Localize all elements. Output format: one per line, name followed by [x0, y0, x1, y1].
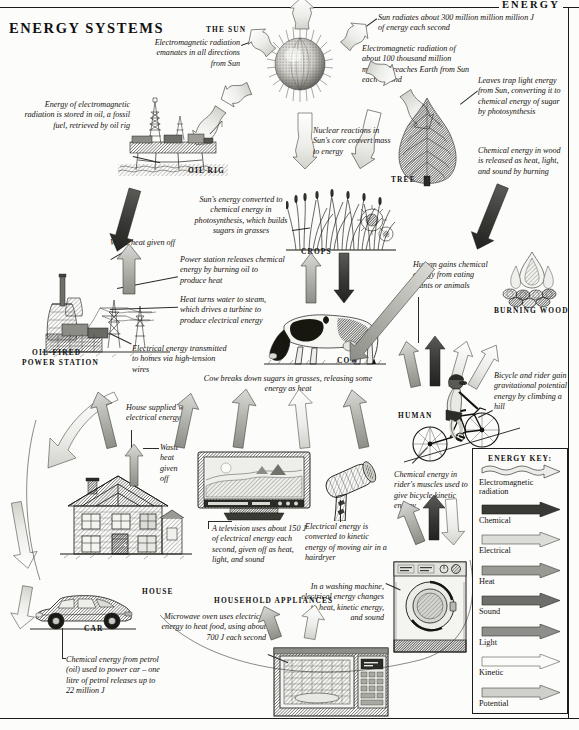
arrow-electrical-icon — [480, 532, 562, 547]
energy-key-label-sound: Sound — [479, 607, 500, 616]
arrow-heat-icon — [480, 563, 562, 578]
energy-key-label-electrical: Electrical — [479, 546, 511, 555]
diagram-page: ENERGY ENERGY SYSTEMS — [0, 0, 579, 730]
energy-key-label-heat: Heat — [479, 577, 495, 586]
energy-key-label-kinetic: Kinetic — [479, 668, 503, 677]
energy-key-row-kinetic: Kinetic — [478, 654, 562, 685]
energy-key-row-em: Electromagnetic radiation — [478, 464, 562, 495]
energy-key-row-potential: Potential — [478, 685, 562, 716]
energy-key-label-em: Electromagnetic radiation — [479, 478, 562, 496]
arrow-sound-icon — [480, 593, 562, 608]
energy-key-row-sound: Sound — [478, 593, 562, 624]
energy-key-label-light: Light — [479, 638, 497, 647]
arrow-chemical-icon — [480, 502, 562, 517]
energy-key-row-light: Light — [478, 624, 562, 655]
arrow-potential-icon — [480, 685, 562, 700]
energy-key-label-potential: Potential — [479, 699, 509, 708]
arrow-kinetic-icon — [480, 654, 562, 669]
energy-key-title: ENERGY KEY: — [478, 454, 562, 463]
energy-key-row-heat: Heat — [478, 563, 562, 594]
energy-key-row-chemical: Chemical — [478, 502, 562, 533]
energy-key-panel: ENERGY KEY: Electromagnetic radiation Ch… — [472, 448, 568, 714]
arrow-electromagnetic-radiation-icon — [480, 464, 562, 479]
arrow-light-icon — [480, 624, 562, 639]
energy-key-row-electrical: Electrical — [478, 532, 562, 563]
energy-key-label-chemical: Chemical — [479, 516, 511, 525]
